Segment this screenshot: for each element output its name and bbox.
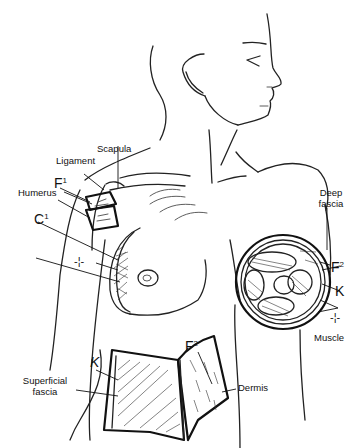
symbol-f2-right: F2	[331, 258, 344, 274]
symbol-f2-bottom-sup: 2	[194, 339, 198, 348]
symbol-c1: C1	[34, 210, 49, 226]
label-scapula: Scapula	[97, 143, 131, 154]
symbol-f2-bottom-letter: F	[185, 338, 194, 354]
label-ligament: Ligament	[56, 155, 95, 166]
label-deep-fascia-line1: Deep	[315, 187, 347, 198]
label-muscle: Muscle	[314, 332, 344, 343]
label-humerus: Humerus	[18, 187, 57, 198]
label-superficial-fascia-line2: fascia	[15, 386, 75, 397]
symbol-k-bottom: K	[90, 355, 99, 369]
breast-section	[110, 228, 206, 315]
symbol-f1-letter: F	[54, 175, 63, 191]
label-deep-fascia-line2: fascia	[315, 198, 347, 209]
skin-flap-section	[104, 336, 228, 440]
label-superficial-fascia: Superficial fascia	[15, 375, 75, 397]
symbol-f2-right-letter: F	[331, 259, 340, 275]
symbol-k-right: K	[335, 284, 344, 298]
label-deep-fascia: Deep fascia	[315, 187, 347, 209]
symbol-star-right: -¦-	[330, 310, 340, 324]
humerus-section	[86, 182, 124, 230]
symbol-f1-sup: 1	[63, 176, 67, 185]
label-superficial-fascia-line1: Superficial	[15, 375, 75, 386]
torso-outline	[50, 148, 331, 448]
symbol-star-left: -¦-	[74, 254, 84, 268]
label-dermis: Dermis	[238, 382, 268, 393]
symbol-f1: F1	[54, 174, 67, 190]
symbol-f2-right-sup: 2	[340, 260, 344, 269]
symbol-c1-sup: 1	[44, 212, 48, 221]
symbol-c1-letter: C	[34, 211, 44, 227]
symbol-f2-bottom: F2	[185, 337, 198, 353]
arm-cross-section	[236, 235, 330, 329]
head-outline	[150, 14, 281, 183]
